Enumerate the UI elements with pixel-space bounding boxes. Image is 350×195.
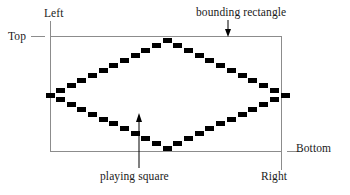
- label-playing-square: playing square: [100, 171, 169, 183]
- label-left: Left: [44, 8, 64, 20]
- bounding-rectangle-shape: [51, 37, 282, 152]
- figure-graphics: [0, 0, 350, 195]
- label-top: Top: [8, 31, 26, 43]
- figure-canvas: Left Top bounding rectangle Bottom Right…: [0, 0, 350, 195]
- label-bottom: Bottom: [296, 143, 331, 155]
- label-right: Right: [261, 171, 287, 183]
- bounding-rectangle-arrow: [225, 20, 231, 37]
- label-bounding-rectangle: bounding rectangle: [196, 7, 286, 19]
- playing-square-diamond: [46, 38, 290, 151]
